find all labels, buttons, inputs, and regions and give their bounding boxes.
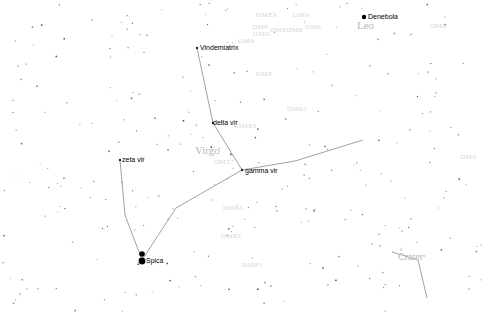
field-star (327, 54, 328, 55)
field-star (394, 33, 396, 35)
field-star (257, 289, 259, 291)
field-star (92, 20, 93, 21)
field-star (404, 198, 405, 199)
field-star (215, 100, 216, 101)
field-star (123, 119, 124, 120)
field-star (127, 15, 128, 16)
bright-star[interactable] (139, 251, 145, 257)
field-star (476, 251, 478, 253)
field-star (80, 187, 81, 188)
field-star (379, 234, 380, 235)
field-star (469, 276, 470, 277)
constellation-label-virgo: Virgo (195, 145, 220, 156)
field-star (179, 287, 180, 288)
field-star (196, 125, 198, 127)
dso-label: OM9 (293, 12, 309, 19)
field-star (383, 287, 384, 288)
field-star (430, 63, 431, 64)
field-star (148, 197, 149, 198)
field-star (385, 311, 386, 312)
field-star (139, 94, 140, 95)
bright-star[interactable] (139, 258, 146, 265)
field-star (443, 198, 444, 199)
field-star (301, 222, 302, 223)
field-star (255, 137, 257, 139)
dso-label: OMES (256, 12, 277, 19)
field-star (417, 96, 418, 97)
star-label-denebola[interactable]: Denebola (368, 13, 398, 20)
field-star (371, 244, 372, 245)
star-chart[interactable]: Leo Virgo Crater Vindemiatrix delta vir … (0, 0, 485, 312)
field-star (91, 123, 92, 124)
field-star (47, 168, 48, 169)
field-star (285, 118, 287, 120)
field-star (140, 34, 141, 35)
field-star (107, 226, 108, 227)
field-star (27, 289, 28, 290)
field-star (32, 26, 34, 28)
field-star (167, 149, 169, 151)
field-star (201, 56, 202, 57)
field-star (15, 176, 16, 177)
field-star (481, 245, 482, 246)
field-star (36, 86, 38, 88)
field-star (366, 185, 367, 186)
field-star (322, 267, 324, 269)
constellation-label-crater: Crater (398, 252, 423, 262)
field-star (66, 102, 68, 104)
field-star (427, 4, 429, 6)
field-star (21, 143, 23, 145)
field-star (313, 71, 314, 72)
field-star (313, 210, 315, 212)
field-star (358, 266, 359, 267)
field-star (318, 111, 319, 112)
field-star (297, 68, 298, 69)
field-star (48, 187, 49, 188)
field-star (441, 249, 443, 251)
field-star (257, 128, 259, 130)
star-label-zeta-vir[interactable]: zeta vir (122, 156, 145, 163)
named-star[interactable] (196, 47, 198, 49)
named-star[interactable] (241, 169, 243, 171)
field-star (360, 170, 361, 171)
field-star (408, 227, 409, 228)
field-star (228, 228, 230, 230)
field-star (362, 214, 363, 215)
field-star (339, 7, 340, 8)
star-label-vindemiatrix[interactable]: Vindemiatrix (200, 44, 238, 51)
field-star (314, 209, 315, 210)
field-star (331, 170, 332, 171)
field-star (232, 226, 233, 227)
field-star (3, 235, 5, 237)
field-star (335, 280, 337, 282)
field-star (109, 48, 110, 49)
field-star (385, 225, 386, 226)
field-star (180, 144, 181, 145)
named-star[interactable] (119, 159, 121, 161)
star-label-delta-vir[interactable]: delta vir (213, 119, 238, 126)
dso-label: OMS (460, 154, 477, 161)
field-star (282, 189, 283, 190)
field-star (234, 72, 236, 74)
field-star (191, 134, 192, 135)
field-star (45, 216, 46, 217)
field-star (422, 113, 423, 114)
star-label-spica[interactable]: Spica (146, 257, 164, 264)
field-star (65, 178, 66, 179)
constellation-line (142, 170, 242, 260)
field-star (380, 245, 381, 246)
field-star (132, 92, 133, 93)
field-star (480, 279, 481, 280)
field-star (128, 47, 129, 48)
field-star (144, 52, 145, 53)
field-star (57, 211, 58, 212)
field-star (60, 186, 61, 187)
field-star (188, 112, 189, 113)
field-star (207, 24, 208, 25)
field-star (195, 276, 196, 277)
field-star (324, 146, 326, 148)
field-star (118, 141, 120, 143)
field-star (381, 173, 382, 174)
field-star (296, 4, 297, 5)
star-label-gamma-vir[interactable]: gamma vir (245, 167, 278, 174)
